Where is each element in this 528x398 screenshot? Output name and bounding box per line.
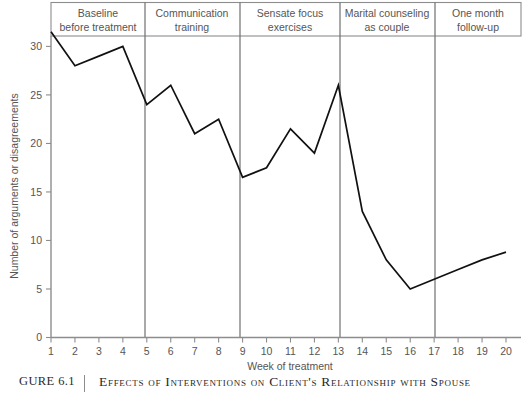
phase-label-communication-line1: Communication: [156, 7, 229, 19]
phase-dividers: [145, 36, 435, 337]
phase-label-sensate-line2: exercises: [268, 21, 312, 33]
figure-number: GURE 6.1: [0, 374, 84, 389]
x-tick-label-week-11: 11: [285, 345, 296, 357]
x-tick-label-week-19: 19: [476, 345, 488, 357]
x-tick-label-week-13: 13: [333, 345, 345, 357]
x-tick-label-week-17: 17: [428, 345, 440, 357]
phase-label-communication-line2: training: [175, 21, 210, 33]
x-tick-label-week-8: 8: [216, 345, 222, 357]
y-tick-label-10: 10: [30, 234, 42, 246]
phase-label-sensate-line1: Sensate focus: [257, 7, 324, 19]
y-axis-title: Number of arguments or disagreements: [8, 93, 20, 279]
x-tick-label-week-2: 2: [72, 345, 78, 357]
figure-container: Baseline before treatment Communication …: [0, 0, 528, 398]
y-tick-label-20: 20: [30, 137, 42, 149]
x-tick-label-week-16: 16: [404, 345, 416, 357]
x-tick-label-week-14: 14: [356, 345, 368, 357]
x-tick-label-week-15: 15: [380, 345, 392, 357]
figure-caption: GURE 6.1 Effects of Interventions on Cli…: [0, 374, 528, 398]
y-tick-label-30: 30: [30, 40, 42, 52]
y-tick-label-5: 5: [36, 283, 42, 295]
phase-label-baseline-line2: before treatment: [59, 21, 136, 33]
phase-label-marital-line1: Marital counseling: [345, 7, 430, 19]
x-tick-label-week-18: 18: [452, 345, 464, 357]
x-tick-label-week-6: 6: [168, 345, 174, 357]
data-series-line: [51, 32, 506, 289]
x-tick-label-week-20: 20: [500, 345, 512, 357]
y-tick-label-25: 25: [30, 89, 42, 101]
y-axis-ticks: 051015202530: [30, 40, 51, 343]
phase-header-panel: Baseline before treatment Communication …: [51, 3, 521, 37]
x-tick-label-week-12: 12: [309, 345, 321, 357]
x-tick-label-week-9: 9: [240, 345, 246, 357]
axes: [51, 36, 521, 338]
x-tick-label-week-10: 10: [261, 345, 273, 357]
y-tick-label-0: 0: [36, 331, 42, 343]
x-axis-ticks: 1234567891011121314151617181920: [48, 338, 512, 357]
x-tick-label-week-5: 5: [144, 345, 150, 357]
x-tick-label-week-7: 7: [192, 345, 198, 357]
phase-label-followup-line2: follow-up: [457, 21, 499, 33]
y-tick-label-15: 15: [30, 186, 42, 198]
x-tick-label-week-4: 4: [120, 345, 126, 357]
line-chart-svg: Baseline before treatment Communication …: [0, 0, 528, 374]
x-axis-title: Week of treatment: [247, 360, 333, 372]
phase-label-baseline-line1: Baseline: [78, 7, 118, 19]
x-tick-label-week-3: 3: [96, 345, 102, 357]
figure-caption-title: Effects of Interventions on Client's Rel…: [85, 374, 471, 390]
phase-label-marital-line2: as couple: [365, 21, 410, 33]
chart-area: Baseline before treatment Communication …: [0, 0, 528, 378]
x-tick-label-week-1: 1: [48, 345, 54, 357]
phase-label-followup-line1: One month: [452, 7, 504, 19]
